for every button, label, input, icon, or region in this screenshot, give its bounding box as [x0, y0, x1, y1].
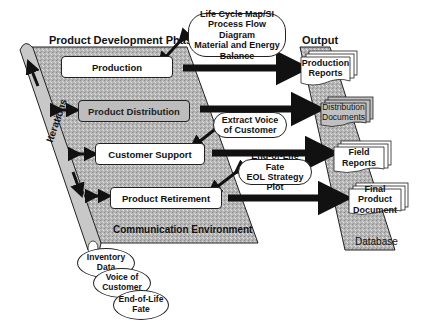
phase-box-product-retirement[interactable]: Product Retirement	[110, 187, 222, 209]
tool-line: Material and Energy Balance	[193, 40, 281, 61]
output-line: Documents	[322, 113, 365, 123]
output-title: Output	[302, 34, 338, 46]
tool-bubble-end-of-life[interactable]: End-of-Life Fate EOL Strategy Plot	[238, 159, 312, 185]
output-field-reports[interactable]: Field Reports	[334, 147, 384, 168]
tool-bubble-life-cycle-map[interactable]: Life Cycle Map/SI Process Flow Diagram M…	[188, 13, 286, 57]
phase-title: Product Development Phase	[49, 34, 198, 46]
tool-line: Life Cycle Map/SI	[200, 9, 274, 19]
database-label: Database	[355, 236, 398, 247]
tool-line: EOL Strategy Plot	[243, 172, 307, 193]
phase-box-production[interactable]: Production	[61, 56, 173, 78]
tool-line: End-of-Life Fate	[243, 151, 307, 172]
output-line: Production	[302, 58, 350, 68]
phase-box-product-distribution[interactable]: Product Distribution	[78, 100, 190, 122]
output-line: Field	[348, 147, 369, 157]
output-production-reports[interactable]: Production Reports	[301, 57, 350, 79]
tool-line: Process Flow Diagram	[193, 19, 281, 40]
phase-label: Customer Support	[108, 149, 191, 160]
phase-label: Product Distribution	[88, 106, 180, 117]
output-line: Reports	[308, 68, 342, 78]
tool-line: Extract Voice	[222, 115, 278, 125]
tool-bubble-extract-voice[interactable]: Extract Voice of Customer	[213, 112, 287, 138]
phase-label: Production	[92, 62, 142, 73]
tool-line: of Customer	[223, 125, 276, 135]
output-distribution-documents[interactable]: Distribution Documents	[321, 103, 366, 122]
data-store-end-of-life-fate[interactable]: End-of-Life Fate	[113, 290, 169, 320]
phase-label: Product Retirement	[122, 193, 210, 204]
output-final-product-document[interactable]: Final Product Document	[349, 189, 401, 210]
output-line: Reports	[342, 158, 376, 168]
data-store-line: Fate	[132, 305, 149, 315]
output-line: Document	[353, 205, 397, 215]
communication-environment-label: Communication Environment	[113, 224, 252, 235]
output-line: Final Product	[349, 184, 401, 205]
phase-box-customer-support[interactable]: Customer Support	[95, 143, 205, 165]
